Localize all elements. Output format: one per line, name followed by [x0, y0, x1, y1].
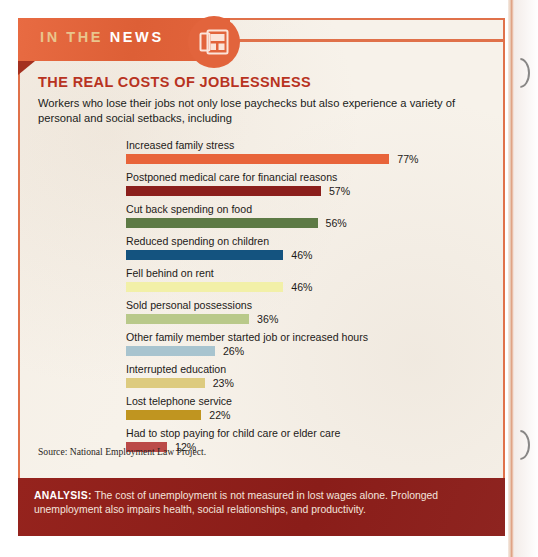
banner-label: IN THE NEWS [40, 30, 164, 45]
chart-bar-line: 77% [126, 153, 496, 165]
chart-bar [126, 218, 318, 228]
chart-bar [126, 154, 389, 164]
chart-row-label: Other family member started job or incre… [126, 331, 496, 345]
chart-bar-line: 22% [126, 409, 496, 421]
newspaper-icon [188, 16, 240, 68]
chart-row-label: Postponed medical care for financial rea… [126, 171, 496, 185]
chart-row: Other family member started job or incre… [126, 331, 496, 357]
chart-row: Reduced spending on children46% [126, 235, 496, 261]
analysis-text: ANALYSIS: The cost of unemployment is no… [34, 489, 489, 517]
chart-bar [126, 282, 283, 292]
analysis-body: The cost of unemployment is not measured… [34, 490, 438, 515]
chart-row-label: Lost telephone service [126, 395, 496, 409]
chart-bar-value: 77% [397, 153, 418, 165]
chart-row: Lost telephone service22% [126, 395, 496, 421]
page-title: THE REAL COSTS OF JOBLESSNESS [38, 74, 311, 90]
analysis-footer: ANALYSIS: The cost of unemployment is no… [18, 478, 505, 536]
chart-bar [126, 314, 249, 324]
chart-row: Increased family stress77% [126, 139, 496, 165]
chart-bar-value: 26% [223, 345, 244, 357]
chart-bar-line: 26% [126, 345, 496, 357]
chart-bar [126, 378, 205, 388]
chart-row-label: Cut back spending on food [126, 203, 496, 217]
chart-bar-line: 56% [126, 217, 496, 229]
chart-row-label: Interrupted education [126, 363, 496, 377]
subhead-text: Workers who lose their jobs not only los… [38, 96, 490, 126]
chart-bar-line: 46% [126, 249, 496, 261]
bar-chart: Increased family stress77%Postponed medi… [126, 139, 496, 453]
chart-row-label: Increased family stress [126, 139, 496, 153]
chart-bar [126, 186, 321, 196]
source-note: Source: National Employment Law Project. [38, 446, 206, 457]
chart-bar-line: 57% [126, 185, 496, 197]
chart-row: Postponed medical care for financial rea… [126, 171, 496, 197]
chart-bar-value: 46% [291, 281, 312, 293]
banner-label-part1: IN THE [40, 29, 103, 45]
chart-bar-value: 22% [209, 409, 230, 421]
chart-row: Cut back spending on food56% [126, 203, 496, 229]
chart-bar-value: 46% [291, 249, 312, 261]
chart-bar [126, 250, 283, 260]
analysis-label: ANALYSIS: [34, 490, 92, 501]
banner-ribbon-fold [18, 61, 35, 75]
in-the-news-card: IN THE NEWS THE REAL COSTS OF JOBLESSNES… [18, 18, 505, 536]
chart-row-label: Fell behind on rent [126, 267, 496, 281]
chart-row: Fell behind on rent46% [126, 267, 496, 293]
chart-row-label: Sold personal possessions [126, 299, 496, 313]
chart-bar-line: 46% [126, 281, 496, 293]
page-background: IN THE NEWS THE REAL COSTS OF JOBLESSNES… [0, 0, 538, 557]
chart-bar-line: 36% [126, 313, 496, 325]
chart-row-label: Had to stop paying for child care or eld… [126, 427, 496, 441]
chart-bar-value: 57% [329, 185, 350, 197]
chart-row: Interrupted education23% [126, 363, 496, 389]
chart-bar-value: 56% [326, 217, 347, 229]
chart-bar-line: 23% [126, 377, 496, 389]
banner-label-part2: NEWS [110, 29, 164, 45]
chart-bar-value: 23% [213, 377, 234, 389]
chart-row-label: Reduced spending on children [126, 235, 496, 249]
chart-bar [126, 410, 201, 420]
chart-bar-value: 36% [257, 313, 278, 325]
chart-row: Sold personal possessions36% [126, 299, 496, 325]
chart-bar [126, 346, 215, 356]
